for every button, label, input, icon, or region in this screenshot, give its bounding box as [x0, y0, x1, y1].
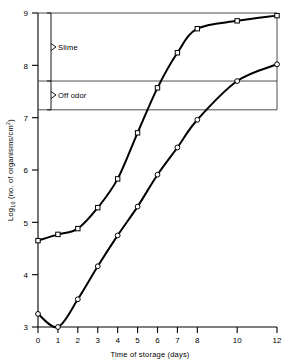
- upper-curve-marker: [175, 51, 179, 55]
- lower-curve-marker: [36, 312, 41, 317]
- y-tick-label-6: 6: [24, 166, 29, 175]
- upper-curve-marker: [115, 177, 119, 181]
- x-tick-label-6: 6: [155, 336, 160, 345]
- lower-curve-marker: [155, 172, 160, 177]
- x-tick-label-1: 1: [56, 336, 61, 345]
- x-tick-label-8: 8: [195, 336, 200, 345]
- x-tick-label-5: 5: [135, 336, 140, 345]
- x-axis-title: Time of storage (days): [110, 350, 189, 359]
- x-tick-label-0: 0: [36, 336, 41, 345]
- y-axis-title-prefix: Log: [6, 208, 15, 221]
- x-tick-label-7: 7: [175, 336, 180, 345]
- lower-curve-marker: [135, 204, 140, 209]
- lower-curve-marker: [56, 325, 61, 330]
- y-tick-label-3: 3: [24, 323, 29, 332]
- upper-curve-marker: [275, 13, 279, 17]
- chart-background: [0, 0, 289, 362]
- lower-curve-marker: [235, 79, 240, 84]
- upper-curve-marker: [36, 238, 40, 242]
- x-tick-label-3: 3: [96, 336, 101, 345]
- y-tick-label-9: 9: [24, 9, 29, 18]
- upper-curve-marker: [56, 232, 60, 236]
- y-axis-title-close: ): [6, 119, 15, 122]
- y-tick-label-4: 4: [24, 271, 29, 280]
- lower-curve-marker: [115, 233, 120, 238]
- x-tick-label-2: 2: [76, 336, 81, 345]
- y-tick-label-8: 8: [24, 62, 29, 71]
- upper-curve-marker: [195, 27, 199, 31]
- chart-figure: 9 8 7 6 5 4 3 0 1 2 3 4 5 6 7 8 10 12 Ti…: [0, 0, 289, 362]
- y-tick-label-7: 7: [24, 114, 29, 123]
- lower-curve-marker: [275, 62, 280, 67]
- off-odor-annotation-label: Off odor: [58, 91, 87, 100]
- slime-annotation-label: Slime: [58, 43, 78, 52]
- upper-curve-marker: [96, 205, 100, 209]
- lower-curve-marker: [75, 297, 80, 302]
- upper-curve-marker: [155, 86, 159, 90]
- y-tick-label-5: 5: [24, 219, 29, 228]
- lower-curve-marker: [175, 145, 180, 150]
- x-tick-label-12: 12: [273, 336, 282, 345]
- upper-curve-marker: [135, 131, 139, 135]
- lower-curve-marker: [195, 117, 200, 122]
- x-tick-label-4: 4: [115, 336, 120, 345]
- upper-curve-marker: [76, 226, 80, 230]
- x-tick-label-10: 10: [233, 336, 242, 345]
- lower-curve-marker: [95, 264, 100, 269]
- y-axis-title-middle: (no. of organisms/cm: [6, 125, 15, 201]
- upper-curve-marker: [235, 19, 239, 23]
